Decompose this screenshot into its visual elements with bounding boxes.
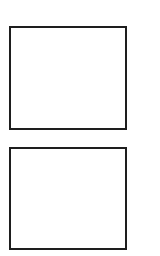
diagram-canvas	[0, 0, 160, 256]
bottom-box	[9, 147, 127, 250]
top-box	[9, 26, 127, 130]
